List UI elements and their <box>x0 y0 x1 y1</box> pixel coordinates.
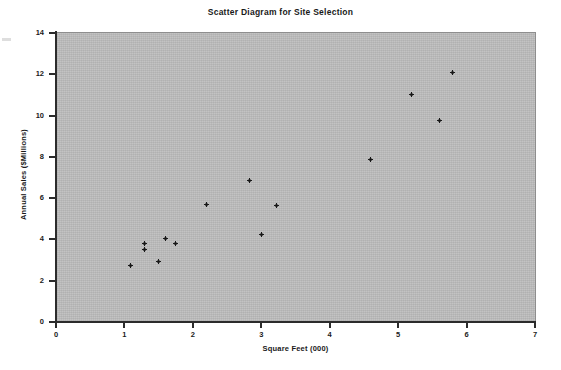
data-point-core <box>143 248 146 251</box>
data-point-core <box>248 179 251 182</box>
x-tick-mark <box>192 322 194 328</box>
data-point <box>173 241 178 246</box>
x-axis-line <box>55 321 536 323</box>
y-tick-label: 12 <box>4 69 44 78</box>
y-tick-mark <box>49 73 55 75</box>
data-point <box>437 118 442 123</box>
x-tick-mark <box>534 322 536 328</box>
plot-top-border <box>56 32 536 33</box>
x-tick-label: 6 <box>452 330 482 339</box>
x-tick-label: 1 <box>109 330 139 339</box>
y-tick-label: 14 <box>4 28 44 37</box>
y-tick-mark <box>49 115 55 117</box>
x-tick-mark <box>55 322 57 328</box>
data-point-core <box>369 158 372 161</box>
y-tick-mark <box>49 238 55 240</box>
data-point-core <box>205 203 208 206</box>
data-point-core <box>260 233 263 236</box>
data-point-core <box>410 93 413 96</box>
x-tick-label: 0 <box>41 330 71 339</box>
data-point <box>204 202 209 207</box>
data-point-core <box>174 242 177 245</box>
data-point <box>247 178 252 183</box>
x-tick-mark <box>123 322 125 328</box>
y-tick-label: 2 <box>4 276 44 285</box>
data-point-core <box>143 242 146 245</box>
data-point <box>450 70 455 75</box>
data-point <box>274 203 279 208</box>
scatter-chart-figure: 02468101214 01234567 Square Feet (000) A… <box>0 0 561 370</box>
x-tick-label: 4 <box>315 330 345 339</box>
data-point <box>409 92 414 97</box>
x-tick-mark <box>329 322 331 328</box>
y-tick-label: 0 <box>4 317 44 326</box>
plot-texture-overlay <box>56 33 535 322</box>
y-tick-mark <box>49 32 55 34</box>
x-axis-title: Square Feet (000) <box>56 344 535 353</box>
y-tick-mark <box>49 197 55 199</box>
data-point-core <box>164 237 167 240</box>
data-point <box>142 241 147 246</box>
plot-area <box>56 33 535 322</box>
x-tick-mark <box>397 322 399 328</box>
data-point <box>259 232 264 237</box>
data-point <box>156 259 161 264</box>
x-tick-mark <box>466 322 468 328</box>
y-tick-label: 4 <box>4 234 44 243</box>
data-point-core <box>129 264 132 267</box>
data-point <box>163 236 168 241</box>
x-tick-label: 7 <box>520 330 550 339</box>
data-point <box>128 263 133 268</box>
data-point-core <box>275 204 278 207</box>
x-tick-mark <box>260 322 262 328</box>
y-axis-title: Annual Sales ($Millions) <box>19 115 28 235</box>
data-point <box>142 247 147 252</box>
x-tick-label: 2 <box>178 330 208 339</box>
x-tick-label: 3 <box>246 330 276 339</box>
y-tick-mark <box>49 156 55 158</box>
y-tick-mark <box>49 280 55 282</box>
data-point-core <box>157 260 160 263</box>
data-point <box>368 157 373 162</box>
plot-right-border <box>535 33 536 322</box>
x-tick-label: 5 <box>383 330 413 339</box>
y-axis-line <box>55 31 57 324</box>
data-point-core <box>438 119 441 122</box>
data-point-core <box>451 71 454 74</box>
